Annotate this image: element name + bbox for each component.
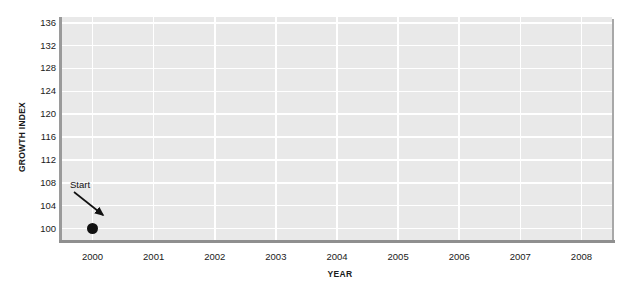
gridline-vertical	[520, 17, 522, 240]
y-tick-label: 136	[26, 18, 56, 28]
chart-figure: GROWTH INDEX Start 136132128124120116112…	[0, 0, 638, 297]
data-point-start	[87, 223, 98, 234]
y-tick-label: 100	[26, 224, 56, 234]
gridline-vertical	[275, 17, 277, 240]
x-tick-label: 2005	[368, 252, 428, 262]
x-tick-label: 2004	[307, 252, 367, 262]
y-tick-label: 104	[26, 201, 56, 211]
x-tick-label: 2000	[63, 252, 123, 262]
gridline-vertical	[397, 17, 399, 240]
x-tick-label: 2002	[185, 252, 245, 262]
gridline-vertical	[458, 17, 460, 240]
gridline-vertical	[336, 17, 338, 240]
plot-area: Start	[62, 17, 612, 240]
x-tick-label: 2001	[124, 252, 184, 262]
plot-frame-bottom-edge	[59, 240, 615, 243]
y-tick-label: 132	[26, 41, 56, 51]
x-tick-label: 2003	[246, 252, 306, 262]
x-axis-title: YEAR	[0, 269, 638, 279]
y-axis-tick-labels: 136132128124120116112108104100	[23, 17, 56, 240]
x-tick-label: 2006	[429, 252, 489, 262]
gridline-vertical	[581, 17, 583, 240]
gridline-vertical	[153, 17, 155, 240]
y-tick-label: 116	[26, 132, 56, 142]
gridline-vertical	[214, 17, 216, 240]
y-tick-label: 120	[26, 109, 56, 119]
gridline-vertical	[92, 17, 94, 240]
y-tick-label: 108	[26, 178, 56, 188]
start-annotation-label: Start	[70, 180, 90, 190]
x-tick-label: 2008	[551, 252, 611, 262]
y-tick-label: 128	[26, 63, 56, 73]
x-axis-tick-labels: 200020012002200320042005200620072008	[62, 252, 612, 266]
x-tick-label: 2007	[490, 252, 550, 262]
y-tick-label: 124	[26, 86, 56, 96]
y-tick-label: 112	[26, 155, 56, 165]
